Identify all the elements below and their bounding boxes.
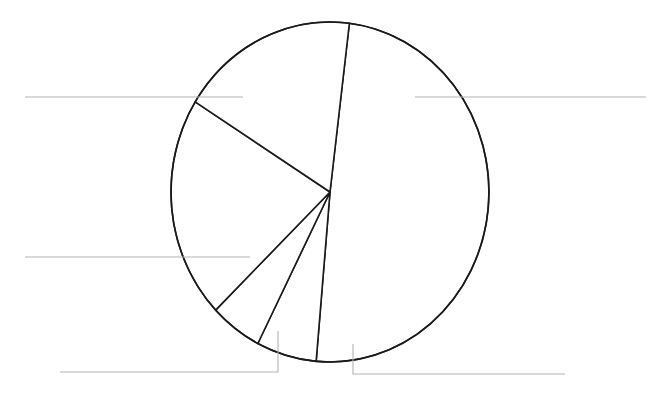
bottom-left-leader	[60, 331, 278, 372]
pie-slices-group	[171, 22, 489, 362]
pie-chart-figure	[0, 0, 658, 400]
pie-chart-canvas	[0, 0, 658, 400]
